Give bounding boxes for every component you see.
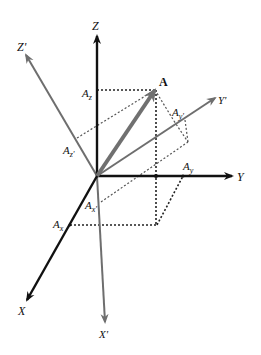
label-ax: Ax [52, 218, 64, 233]
axis-y-prime [97, 98, 215, 176]
label-azp: Az' [62, 144, 75, 159]
label-x-prime: X' [98, 328, 109, 340]
axis-z-prime [26, 55, 97, 176]
label-az: Az [81, 87, 93, 102]
label-z-prime: Z' [17, 40, 27, 54]
vector-a [97, 90, 155, 176]
label-ay: Ay [182, 160, 194, 175]
label-x: X [17, 304, 26, 318]
original-axes [27, 36, 232, 300]
axis-x-prime [97, 176, 105, 322]
label-vector-a: A [159, 75, 168, 89]
label-y: Y [237, 170, 245, 184]
axis-x [27, 176, 97, 300]
label-y-prime: Y' [218, 94, 227, 106]
label-axp: Ax' [84, 199, 97, 214]
proj-ay-diagonal [157, 176, 183, 225]
coordinate-rotation-diagram: Z Y X Z' Y' X' A Az Az' Ay' Ay Ax' Ax [0, 0, 261, 355]
label-z: Z [92, 19, 99, 33]
rotated-axes [26, 55, 215, 322]
